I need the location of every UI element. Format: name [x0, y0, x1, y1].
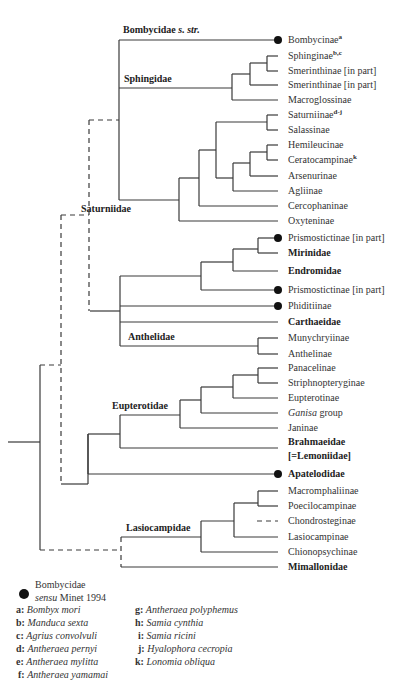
- leaf-label: Eupterotinae: [288, 392, 339, 404]
- leaf-label: Prismostictinae [in part]: [288, 232, 385, 244]
- leaf-label: Prismostictinae [in part]: [288, 284, 385, 296]
- leaf-label: Phiditiinae: [288, 300, 331, 312]
- group-label-saturniidae: Saturniidae: [81, 203, 131, 214]
- leaf-label: Smerinthinae [in part]: [288, 79, 376, 91]
- legend-item: d: Antheraea pernyi: [16, 643, 97, 655]
- leaf-label: Ceratocampinaek: [288, 154, 357, 166]
- leaf-label: Endromidae: [288, 265, 341, 277]
- leaf-label: Smerinthinae [in part]: [288, 65, 376, 77]
- legend-item: f: Antheraea yamamai: [18, 669, 108, 681]
- leaf-label: Chondrosteginae: [288, 515, 356, 527]
- leaf-label: Brahmaeidae: [288, 436, 345, 448]
- legend-item: h: Samia cynthia: [135, 617, 203, 629]
- leaf-label: Mirinidae: [288, 247, 331, 259]
- leaf-label: Ganisa group: [288, 407, 343, 419]
- leaf-label: Janinae: [288, 422, 318, 434]
- bombycidae-dot-icon: [274, 302, 282, 310]
- group-label-italic: s. str.: [178, 24, 199, 35]
- leaf-label: Mimallonidae: [288, 561, 347, 573]
- legend-item: k: Lonomia obliqua: [135, 656, 215, 668]
- legend-item: c: Agrius convolvuli: [16, 630, 97, 642]
- leaf-label: Munychryiinae: [288, 332, 349, 344]
- leaf-label: Oxyteninae: [288, 215, 334, 227]
- leaf-label: Poecilocampinae: [288, 500, 356, 512]
- leaf-label: Lasiocampinae: [288, 531, 349, 543]
- legend-item: j: Hyalophora cecropia: [138, 643, 233, 655]
- legend-dot-line1: Bombycidae: [35, 578, 106, 591]
- leaf-label: Sphinginaeb,c: [288, 50, 342, 62]
- leaf-label: Striphnopteryginae: [288, 377, 365, 389]
- leaf-label: Apatelodidae: [288, 468, 345, 480]
- bombycidae-dot-icon: [274, 36, 282, 44]
- legend-dot-line2-italic: sensu: [35, 592, 57, 603]
- group-label-text: Bombycidae: [123, 24, 178, 35]
- leaf-label: Bombycinaea: [288, 34, 342, 46]
- legend-item: g: Antheraea polyphemus: [135, 604, 238, 616]
- leaf-label: Macromphaliinae: [288, 485, 359, 497]
- leaf-label: Anthelinae: [288, 348, 332, 360]
- bombycidae-dot-icon: [274, 234, 282, 242]
- group-label-sphingidae: Sphingidae: [124, 73, 172, 84]
- leaf-label: Salassinae: [288, 124, 330, 136]
- legend-item: i: Samia ricini: [138, 630, 196, 642]
- leaf-label: Cercophaninae: [288, 200, 348, 212]
- legend-item: a: Bombyx mori: [16, 604, 80, 616]
- group-label-bombycidae: Bombycidae s. str.: [123, 24, 200, 35]
- bombycidae-dot-icon: [274, 286, 282, 294]
- leaf-label: [=Lemoniidae]: [288, 450, 351, 462]
- group-label-anthelidae: Anthelidae: [128, 331, 175, 342]
- leaf-label: Chionopsychinae: [288, 546, 357, 558]
- legend-dot-line2: Minet 1994: [57, 592, 106, 603]
- bombycidae-dot-icon: [274, 470, 282, 478]
- leaf-label: Arsenurinae: [288, 170, 337, 182]
- legend-item: e: Antheraea mylitta: [16, 656, 98, 668]
- leaf-label: Saturniinaed-j: [288, 109, 342, 121]
- leaf-label: Carthaeidae: [288, 316, 341, 328]
- group-label-lasiocampidae: Lasiocampidae: [126, 522, 190, 533]
- group-label-eupterotidae: Eupterotidae: [112, 400, 168, 411]
- legend-item: b: Manduca sexta: [16, 617, 88, 629]
- leaf-label: Hemileucinae: [288, 139, 344, 151]
- leaf-label: Agliinae: [288, 185, 322, 197]
- legend-dot-description: Bombycidae sensu Minet 1994: [35, 578, 106, 604]
- bombycidae-legend-dot-icon: [19, 589, 29, 599]
- leaf-label: Macroglossinae: [288, 94, 351, 106]
- leaf-label: Panacelinae: [288, 362, 336, 374]
